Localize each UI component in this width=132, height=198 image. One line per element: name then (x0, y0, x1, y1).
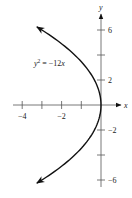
equation-label-part: x (60, 59, 65, 68)
y-tick-label: 6 (108, 26, 112, 35)
equation-label: y2 = −12x (33, 58, 65, 68)
equation-label-part: = −12 (40, 59, 61, 68)
y-tick-label: 2 (108, 76, 112, 85)
y-tick-label: −6 (108, 176, 117, 185)
y-tick-labels: 62−2−6 (108, 26, 117, 185)
x-tick-label: −4 (18, 112, 27, 121)
y-axis-label: y (98, 3, 103, 12)
x-tick-label: −2 (57, 112, 66, 121)
y-tick-label: −2 (108, 126, 117, 135)
x-tick-labels: −4−2 (18, 112, 66, 121)
x-axis-label: x (123, 101, 128, 110)
parabola-chart: x y −4−2 62−2−6 y2 = −12x (0, 0, 132, 198)
